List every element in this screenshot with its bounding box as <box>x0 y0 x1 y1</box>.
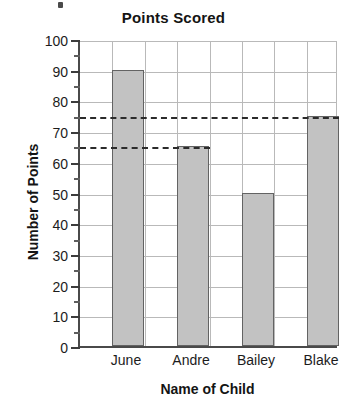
y-axis-tick-label: 30 <box>52 248 68 264</box>
plot-area: 0102030405060708090100 <box>78 41 337 348</box>
y-axis-tick-label: 80 <box>52 94 68 110</box>
y-axis-tick-label: 60 <box>52 156 68 172</box>
gridline-vertical <box>274 41 275 346</box>
y-axis-tick-major <box>71 286 80 288</box>
y-axis-tick-minor <box>74 332 80 334</box>
y-axis-tick-label: 20 <box>52 279 68 295</box>
x-axis-tick-label: Blake <box>303 352 338 368</box>
y-axis-tick-major <box>71 316 80 318</box>
x-axis-tick-label: Bailey <box>237 352 275 368</box>
y-axis-tick-major <box>71 101 80 103</box>
gridline-vertical <box>210 41 211 346</box>
x-axis-title: Name of Child <box>78 381 337 397</box>
y-axis-tick-label: 10 <box>52 309 68 325</box>
reference-line-65 <box>80 147 210 149</box>
y-axis-tick-major <box>71 347 80 349</box>
y-axis-tick-label: 90 <box>52 64 68 80</box>
y-axis-tick-major <box>71 163 80 165</box>
y-axis-tick-minor <box>74 86 80 88</box>
y-axis-tick-minor <box>74 209 80 211</box>
x-axis-tick-label: June <box>111 352 141 368</box>
y-axis-tick-minor <box>74 55 80 57</box>
bar-bailey <box>242 193 274 347</box>
bar-andre <box>177 146 209 346</box>
y-axis-tick-major <box>71 132 80 134</box>
y-axis-tick-major <box>71 71 80 73</box>
y-axis-title: Number of Points <box>25 107 41 297</box>
y-axis-tick-label: 0 <box>60 340 68 356</box>
y-axis-tick-minor <box>74 240 80 242</box>
chart-title: Points Scored <box>0 9 347 26</box>
y-axis-tick-minor <box>74 301 80 303</box>
y-axis-tick-label: 70 <box>52 125 68 141</box>
y-axis-tick-minor <box>74 270 80 272</box>
x-axis-tick-label: Andre <box>172 352 209 368</box>
reference-line-75 <box>80 117 339 119</box>
y-axis-tick-major <box>71 255 80 257</box>
y-axis-tick-major <box>71 40 80 42</box>
bar-june <box>112 70 144 346</box>
bar-blake <box>307 116 339 346</box>
y-axis-tick-major <box>71 194 80 196</box>
gridline-vertical <box>145 41 146 346</box>
scan-artifact <box>58 2 63 8</box>
y-axis-tick-minor <box>74 178 80 180</box>
y-axis-tick-label: 100 <box>45 33 68 49</box>
y-axis-tick-major <box>71 224 80 226</box>
y-axis-tick-label: 40 <box>52 217 68 233</box>
y-axis-tick-label: 50 <box>52 187 68 203</box>
